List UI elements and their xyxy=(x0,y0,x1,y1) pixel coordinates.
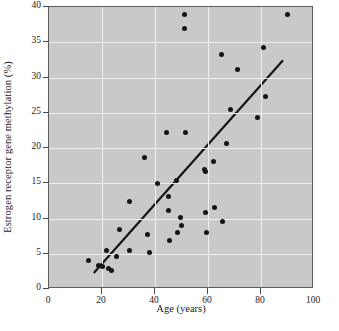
data-point xyxy=(178,215,183,220)
y-axis-tick xyxy=(43,112,49,113)
gridline-horizontal xyxy=(49,148,312,149)
gridline-horizontal xyxy=(49,78,312,79)
data-point xyxy=(142,155,147,160)
y-axis-tick-label: 5 xyxy=(1,248,41,258)
data-point xyxy=(166,208,171,213)
gridline-horizontal xyxy=(49,113,312,114)
data-point xyxy=(183,130,188,135)
data-point xyxy=(203,210,208,215)
y-axis-tick xyxy=(43,147,49,148)
data-point xyxy=(109,268,114,273)
x-axis-tick-label: 100 xyxy=(293,295,333,305)
gridline-vertical xyxy=(208,7,209,287)
y-axis-tick-label: 35 xyxy=(1,36,41,46)
data-point xyxy=(211,159,216,164)
x-axis-tick xyxy=(154,288,155,294)
y-axis-tick xyxy=(43,182,49,183)
gridline-vertical xyxy=(155,7,156,287)
y-axis-tick-label: 40 xyxy=(1,1,41,11)
y-axis-tick-label: 30 xyxy=(1,72,41,82)
y-axis-tick xyxy=(43,77,49,78)
data-point xyxy=(212,205,217,210)
gridline-horizontal xyxy=(49,42,312,43)
data-point xyxy=(263,94,268,99)
data-point xyxy=(255,115,260,120)
x-axis-tick-label: 60 xyxy=(187,295,227,305)
y-axis-tick xyxy=(43,288,49,289)
data-point xyxy=(86,258,91,263)
data-point xyxy=(203,169,208,174)
data-point xyxy=(167,238,172,243)
x-axis-tick xyxy=(260,288,261,294)
y-axis-tick-label: 10 xyxy=(1,213,41,223)
data-point xyxy=(155,181,160,186)
x-axis-tick-label: 40 xyxy=(134,295,174,305)
figure-scatter-plot: Estrogen receptor gene methylation (%) A… xyxy=(0,0,339,331)
y-axis-tick xyxy=(43,253,49,254)
x-axis-tick xyxy=(101,288,102,294)
gridline-horizontal xyxy=(49,183,312,184)
data-point xyxy=(104,248,109,253)
data-point xyxy=(182,12,187,17)
data-point xyxy=(182,26,187,31)
y-axis-tick xyxy=(43,41,49,42)
data-point xyxy=(117,227,122,232)
gridline-horizontal xyxy=(49,254,312,255)
data-point xyxy=(100,264,105,269)
y-axis-tick xyxy=(43,218,49,219)
trendline xyxy=(49,7,312,287)
y-axis-tick-label: 15 xyxy=(1,177,41,187)
data-point xyxy=(166,194,171,199)
data-point xyxy=(261,45,266,50)
y-axis-tick-label: 20 xyxy=(1,142,41,152)
data-point xyxy=(220,219,225,224)
y-axis-tick xyxy=(43,6,49,7)
x-axis-tick-label: 0 xyxy=(28,295,68,305)
plot-area xyxy=(48,6,313,288)
gridline-vertical xyxy=(102,7,103,287)
y-axis-tick-label: 25 xyxy=(1,107,41,117)
x-axis-tick-label: 20 xyxy=(81,295,121,305)
data-point xyxy=(145,232,150,237)
data-point xyxy=(147,250,152,255)
data-point xyxy=(235,67,240,72)
data-point xyxy=(285,12,290,17)
data-point xyxy=(219,52,224,57)
x-axis-tick xyxy=(207,288,208,294)
data-point xyxy=(174,178,179,183)
x-axis-tick-label: 80 xyxy=(240,295,280,305)
y-axis-tick-label: 0 xyxy=(1,283,41,293)
